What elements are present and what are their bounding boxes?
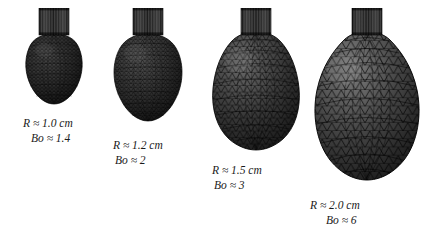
pendant-droplet-figure: R ≈ 1.0 cm Bo ≈ 1.4 — [0, 0, 434, 242]
droplet-3-render — [206, 8, 306, 160]
droplet-3-body — [213, 32, 300, 150]
droplet-4-nozzle — [352, 8, 382, 35]
droplet-4-body — [315, 32, 419, 180]
droplet-1-body — [26, 34, 82, 104]
droplet-3-nozzle — [241, 8, 271, 35]
droplet-4-label: R ≈ 2.0 cm Bo ≈ 6 — [310, 198, 360, 227]
droplet-2-render — [108, 8, 188, 136]
droplet-3-group — [206, 8, 306, 160]
droplet-2-nozzle — [133, 8, 163, 35]
droplet-4-bond-text: Bo ≈ 6 — [310, 213, 360, 228]
droplet-2-label: R ≈ 1.2 cm Bo ≈ 2 — [113, 138, 163, 167]
droplet-2-bond-text: Bo ≈ 2 — [113, 153, 163, 168]
droplet-1-group — [22, 8, 86, 118]
droplet-2-body — [114, 34, 182, 121]
droplet-4-radius-text: R ≈ 2.0 cm — [310, 198, 360, 213]
droplet-2-radius-text: R ≈ 1.2 cm — [113, 138, 163, 153]
droplet-1-nozzle — [39, 8, 69, 35]
droplet-1-render — [22, 8, 86, 118]
droplet-3-radius-text: R ≈ 1.5 cm — [212, 163, 262, 178]
droplet-3-label: R ≈ 1.5 cm Bo ≈ 3 — [212, 163, 262, 192]
droplet-4-group — [308, 8, 426, 190]
droplet-4-render — [308, 8, 426, 190]
droplet-1-bond-text: Bo ≈ 1.4 — [23, 131, 73, 146]
droplet-3-bond-text: Bo ≈ 3 — [212, 178, 262, 193]
droplet-1-radius-text: R ≈ 1.0 cm — [23, 116, 73, 131]
droplet-1-label: R ≈ 1.0 cm Bo ≈ 1.4 — [23, 116, 73, 145]
droplet-2-group — [108, 8, 188, 136]
